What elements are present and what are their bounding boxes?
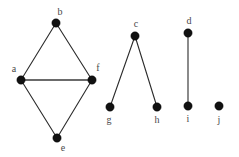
edge-c-h (135, 36, 157, 107)
graph-canvas (0, 0, 239, 157)
vertex-label-a: a (12, 64, 16, 74)
vertex-label-g: g (107, 115, 112, 125)
edge-c-g (110, 36, 135, 107)
vertex-d[interactable] (184, 29, 192, 37)
vertex-label-b: b (58, 7, 63, 17)
vertex-label-j: j (218, 115, 221, 125)
edge-a-b (21, 23, 56, 80)
edge-a-e (21, 80, 57, 138)
vertex-g[interactable] (106, 103, 114, 111)
edges-group (21, 23, 188, 138)
edge-b-f (56, 23, 92, 80)
vertex-label-d: d (187, 16, 192, 26)
vertex-j[interactable] (215, 102, 223, 110)
vertex-a[interactable] (17, 76, 25, 84)
graph-diagram: abcdefghij (0, 0, 239, 157)
vertex-h[interactable] (153, 103, 161, 111)
vertex-i[interactable] (184, 102, 192, 110)
vertex-e[interactable] (53, 134, 61, 142)
vertex-label-e: e (61, 143, 65, 153)
vertex-c[interactable] (131, 32, 139, 40)
vertex-b[interactable] (52, 19, 60, 27)
vertex-label-h: h (155, 115, 160, 125)
vertex-label-f: f (96, 63, 99, 73)
edge-e-f (57, 80, 92, 138)
vertex-f[interactable] (88, 76, 96, 84)
vertex-label-i: i (187, 114, 190, 124)
vertex-label-c: c (134, 19, 138, 29)
